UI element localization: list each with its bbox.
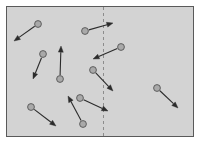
node-marker (90, 67, 97, 74)
node-marker (35, 21, 42, 28)
node-marker (154, 85, 161, 92)
node-marker (82, 28, 89, 35)
field-region-panel (7, 7, 194, 137)
vector-field-diagram (0, 0, 201, 144)
vector-shaft (60, 52, 61, 75)
node-marker (77, 95, 84, 102)
figure-root (0, 0, 201, 144)
node-marker (80, 121, 87, 128)
node-marker (57, 76, 64, 83)
node-marker (40, 51, 47, 58)
node-marker (118, 44, 125, 51)
field-region-rect (7, 7, 194, 137)
node-marker (28, 104, 35, 111)
